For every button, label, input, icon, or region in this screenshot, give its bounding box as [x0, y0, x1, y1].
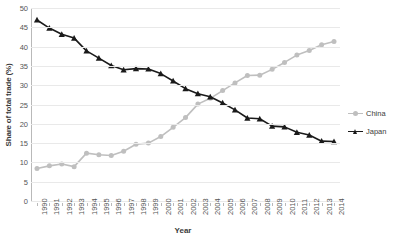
- x-tick-mark: [148, 203, 149, 206]
- y-tick-label: 25: [4, 100, 28, 109]
- x-tick-mark: [136, 203, 137, 206]
- y-tick-label: 5: [4, 177, 28, 186]
- x-tick-mark: [74, 203, 75, 206]
- x-tick-label: 1998: [139, 198, 148, 215]
- data-point: [307, 48, 312, 53]
- data-point: [245, 73, 250, 78]
- x-tick-mark: [223, 203, 224, 206]
- x-tick-mark: [87, 203, 88, 206]
- gridline: [31, 27, 340, 28]
- x-tick-label: 1996: [114, 198, 123, 215]
- x-tick-mark: [37, 203, 38, 206]
- data-point: [294, 53, 299, 58]
- y-tick-label: 50: [4, 4, 28, 13]
- x-tick-label: 2004: [213, 198, 222, 215]
- x-tick-label: 1993: [77, 198, 86, 215]
- y-tick-label: 0: [4, 197, 28, 206]
- x-tick-label: 2009: [275, 198, 284, 215]
- data-point: [109, 153, 114, 158]
- data-point: [121, 149, 126, 154]
- x-tick-mark: [247, 203, 248, 206]
- data-point: [183, 115, 188, 120]
- x-tick-mark: [49, 203, 50, 206]
- x-tick-label: 2011: [300, 199, 309, 215]
- x-tick-label: 2013: [325, 198, 334, 215]
- data-point: [84, 151, 89, 156]
- x-tick-mark: [124, 203, 125, 206]
- gridline: [31, 47, 340, 48]
- data-point: [96, 55, 102, 61]
- x-tick-label: 2012: [312, 198, 321, 215]
- x-axis-title: Year: [27, 226, 339, 235]
- x-tick-mark: [322, 203, 323, 206]
- legend-entry-china[interactable]: China: [348, 104, 396, 122]
- legend-swatch-icon: [348, 109, 363, 118]
- data-point: [270, 67, 275, 72]
- x-tick-mark: [297, 203, 298, 206]
- gridline: [31, 162, 340, 163]
- data-point: [171, 125, 176, 130]
- x-tick-mark: [272, 203, 273, 206]
- data-point: [96, 152, 101, 157]
- data-point: [220, 88, 225, 93]
- x-tick-label: 2008: [263, 198, 272, 215]
- x-tick-label: 2000: [164, 198, 173, 215]
- x-tick-mark: [111, 203, 112, 206]
- x-tick-label: 1997: [127, 198, 136, 215]
- x-tick-label: 1990: [40, 198, 49, 215]
- y-tick-label: 15: [4, 139, 28, 148]
- gridline: [31, 8, 340, 9]
- x-tick-label: 2005: [226, 198, 235, 215]
- x-tick-mark: [309, 203, 310, 206]
- x-tick-label: 2010: [288, 198, 297, 215]
- gridline: [31, 85, 340, 86]
- y-tick-label: 30: [4, 81, 28, 90]
- data-point: [158, 134, 163, 139]
- x-tick-mark: [99, 203, 100, 206]
- x-tick-mark: [161, 203, 162, 206]
- gridline: [31, 66, 340, 67]
- x-tick-mark: [186, 203, 187, 206]
- gridline: [31, 105, 340, 106]
- data-point: [34, 17, 40, 23]
- data-point: [332, 39, 337, 44]
- legend-entry-japan[interactable]: Japan: [348, 122, 396, 140]
- data-point: [282, 60, 287, 65]
- data-point: [257, 73, 262, 78]
- legend-label: China: [366, 109, 386, 118]
- data-point: [232, 107, 238, 113]
- y-tick-label: 10: [4, 158, 28, 167]
- x-tick-label: 1999: [151, 198, 160, 215]
- line-chart: Share of total trade (%) 051015202530354…: [0, 0, 396, 241]
- legend-swatch-icon: [348, 127, 363, 136]
- x-tick-label: 1995: [102, 198, 111, 215]
- gridline: [31, 182, 340, 183]
- x-tick-label: 2014: [337, 198, 346, 215]
- y-tick-label: 20: [4, 119, 28, 128]
- x-tick-label: 2003: [201, 198, 210, 215]
- x-tick-label: 1992: [65, 198, 74, 215]
- x-tick-label: 1991: [52, 198, 61, 215]
- y-axis-tick-labels: 05101520253035404550: [0, 8, 28, 201]
- x-tick-mark: [210, 203, 211, 206]
- legend-label: Japan: [366, 127, 386, 136]
- y-tick-label: 35: [4, 61, 28, 70]
- x-tick-label: 2002: [189, 198, 198, 215]
- x-tick-mark: [62, 203, 63, 206]
- data-point: [47, 163, 52, 168]
- x-tick-mark: [235, 203, 236, 206]
- x-tick-mark: [285, 203, 286, 206]
- gridline: [31, 143, 340, 144]
- y-tick-label: 45: [4, 23, 28, 32]
- chart-legend: ChinaJapan: [348, 104, 396, 140]
- x-axis-tick-labels: 1990199119921993199419951996199719981999…: [31, 203, 340, 227]
- series-japan: [34, 17, 337, 144]
- x-tick-label: 2007: [250, 198, 259, 215]
- data-point: [72, 164, 77, 169]
- data-point: [170, 78, 176, 84]
- x-tick-mark: [173, 203, 174, 206]
- x-tick-mark: [198, 203, 199, 206]
- x-tick-label: 2006: [238, 198, 247, 215]
- x-tick-mark: [260, 203, 261, 206]
- data-point: [35, 166, 40, 171]
